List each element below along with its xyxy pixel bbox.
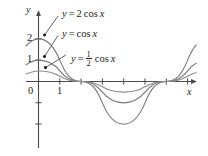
curve-label-2cos: y=2cosx xyxy=(62,9,105,20)
y-tick-label-1: 1 xyxy=(27,54,32,65)
curve-label-halfcos: y=12cosx xyxy=(71,50,116,68)
x-tick-label-1: 1 xyxy=(57,86,62,97)
curve-label-2cos-eq: = xyxy=(69,8,75,19)
curve-label-2cos-var: x xyxy=(100,8,105,19)
fraction-denominator: 2 xyxy=(86,58,92,68)
cosine-graph-figure: y x 2 1 0 1 y=2cosx y=cosx y=12cosx xyxy=(0,0,208,156)
plot-canvas xyxy=(0,0,208,156)
curve-label-cos-lhs: y xyxy=(62,28,67,39)
curve-label-halfcos-var: x xyxy=(111,53,116,64)
fraction-numerator: 1 xyxy=(86,50,92,59)
curve-label-cos-eq: = xyxy=(69,28,75,39)
curve-label-halfcos-fraction: 12 xyxy=(86,50,92,68)
leader-line-2cos xyxy=(45,16,59,35)
y-tick-label-2: 2 xyxy=(27,33,32,44)
curve-label-halfcos-eq: = xyxy=(78,53,84,64)
x-axis-label: x xyxy=(187,87,191,97)
curve-label-2cos-lhs: y xyxy=(62,8,67,19)
curve-label-halfcos-lhs: y xyxy=(71,53,76,64)
curve-label-cos-var: x xyxy=(93,28,98,39)
curve-label-cos: y=cosx xyxy=(62,29,97,40)
leader-line-halfcos xyxy=(46,55,67,68)
y-axis-label: y xyxy=(26,5,30,15)
leader-line-cos xyxy=(45,36,59,57)
curve-label-halfcos-fn: cos xyxy=(95,53,109,64)
origin-label: 0 xyxy=(28,86,33,97)
curve-label-2cos-coef: 2 xyxy=(77,8,82,19)
curve-label-2cos-fn: cos xyxy=(84,8,98,19)
curve-label-cos-fn: cos xyxy=(77,28,91,39)
